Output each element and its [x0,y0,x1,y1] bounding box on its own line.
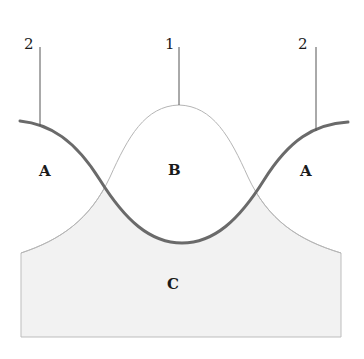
region-label-b: B [168,161,181,179]
diagram-canvas: 2 1 2 A B A C [0,0,364,359]
callout-label-center: 1 [165,35,175,53]
region-label-a-left: A [38,162,51,180]
callout-label-left: 2 [24,35,34,53]
callout-label-right: 2 [298,35,308,53]
region-label-a-right: A [299,162,312,180]
region-label-c: C [167,275,179,293]
